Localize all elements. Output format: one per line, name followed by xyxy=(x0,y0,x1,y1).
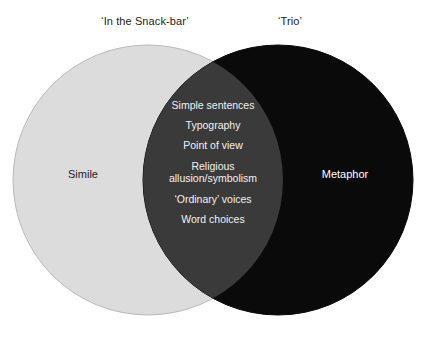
overlap-item: Simple sentences xyxy=(152,100,274,111)
overlap-item-list: Simple sentences Typography Point of vie… xyxy=(152,100,274,225)
venn-diagram: ‘In the Snack-bar’ ‘Trio’ Simile Metapho… xyxy=(0,0,435,341)
left-set-label: Simile xyxy=(28,168,138,180)
right-set-title: ‘Trio’ xyxy=(190,15,390,27)
overlap-item: Point of view xyxy=(152,140,274,151)
right-set-label: Metaphor xyxy=(290,168,400,180)
overlap-item: Typography xyxy=(152,120,274,131)
overlap-item: Word choices xyxy=(152,214,274,225)
overlap-item: Religious allusion/symbolism xyxy=(152,160,274,185)
overlap-item: ‘Ordinary’ voices xyxy=(152,194,274,205)
